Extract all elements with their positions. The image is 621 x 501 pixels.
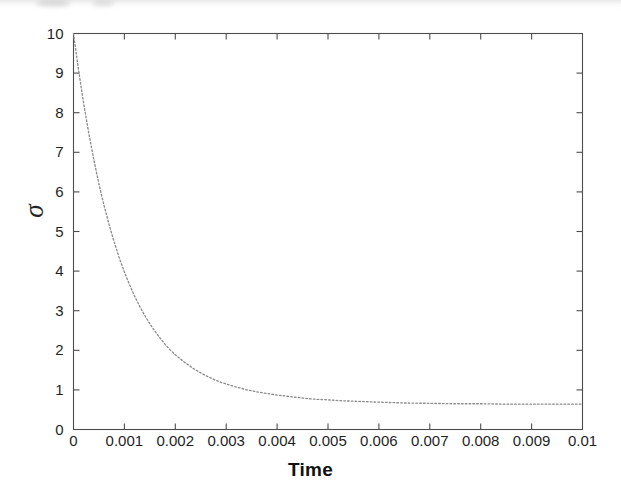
plot-box-border bbox=[74, 34, 583, 430]
y-tick-label: 2 bbox=[30, 341, 64, 358]
y-tick-label: 8 bbox=[30, 104, 64, 121]
x-tick-label: 0.01 bbox=[548, 432, 618, 449]
axes-frame bbox=[74, 34, 583, 430]
x-axis-label: Time bbox=[0, 459, 621, 481]
axis-ticks bbox=[74, 34, 583, 430]
chart-figure: 012345678910 00.0010.0020.0030.0040.0050… bbox=[0, 0, 621, 501]
y-axis-label: σ bbox=[19, 191, 49, 231]
data-series-sigma bbox=[74, 34, 583, 405]
y-tick-label: 10 bbox=[30, 25, 64, 42]
y-tick-label: 4 bbox=[30, 262, 64, 279]
y-tick-label: 9 bbox=[30, 64, 64, 81]
y-tick-label: 3 bbox=[30, 302, 64, 319]
y-tick-label: 7 bbox=[30, 143, 64, 160]
y-tick-label: 1 bbox=[30, 381, 64, 398]
plot-area bbox=[0, 0, 621, 501]
